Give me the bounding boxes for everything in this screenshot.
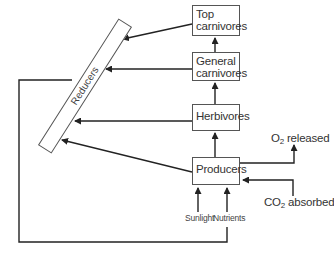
co2-prefix: CO [264, 196, 281, 208]
arrow-producers-to-reducers [62, 140, 192, 172]
node-general-carnivores: General carnivores [192, 52, 240, 81]
sunlight-label: Sunlight [185, 213, 214, 223]
node-producers: Producers [192, 157, 240, 185]
node-herbivores: Herbivores [192, 104, 240, 131]
producers-label: Producers [196, 163, 247, 175]
co2-suffix: absorbed [285, 196, 334, 208]
top-carnivores-line2: carnivores [196, 20, 236, 32]
herbivores-label: Herbivores [196, 110, 250, 122]
general-carnivores-line2: carnivores [196, 67, 236, 79]
top-carnivores-line1: Top [196, 8, 236, 20]
co2-absorbed-label: CO2 absorbed [264, 196, 334, 210]
arrow-producers-to-o2 [239, 145, 294, 163]
general-carnivores-line1: General [196, 55, 236, 67]
arrow-co2-to-producers [243, 180, 293, 196]
node-top-carnivores: Top carnivores [192, 5, 240, 36]
arrow-top-to-reducers [123, 24, 192, 39]
nutrients-label: Nutrients [213, 213, 245, 223]
o2-prefix: O [271, 132, 280, 144]
o2-suffix: released [284, 132, 330, 144]
o2-released-label: O2 released [271, 132, 330, 146]
